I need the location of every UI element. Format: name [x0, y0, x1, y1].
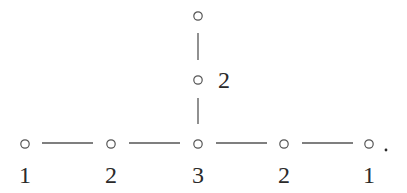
node-n7	[194, 12, 202, 20]
label-n1: 1	[19, 162, 31, 188]
label-n2: 2	[105, 162, 117, 188]
node-n4	[280, 140, 288, 148]
node-n3	[194, 140, 202, 148]
node-n6	[194, 76, 202, 84]
label-n6: 2	[218, 67, 230, 93]
node-n1	[21, 140, 29, 148]
label-n3: 3	[192, 162, 204, 188]
node-n2	[107, 140, 115, 148]
label-n5: 1	[363, 162, 375, 188]
trailing-period	[385, 149, 388, 152]
label-n4: 2	[278, 162, 290, 188]
node-n5	[365, 140, 373, 148]
dynkin-diagram: 1 2 3 2 1 2	[0, 0, 407, 193]
